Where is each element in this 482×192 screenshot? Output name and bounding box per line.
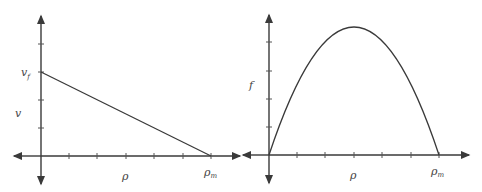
velocity-density-plot: vf v ρ ρm: [14, 16, 240, 184]
rho-m-label: ρm: [430, 165, 444, 179]
x-axis-label: ρ: [349, 169, 357, 182]
velocity-line: [41, 72, 211, 156]
flux-density-plot: f ρ ρm: [243, 15, 469, 183]
x-axis-label: ρ: [121, 170, 129, 183]
flux-parabola: [269, 27, 439, 155]
rho-m-label: ρm: [203, 166, 217, 180]
diagram-canvas: vf v ρ ρm f ρ ρm: [0, 0, 482, 192]
y-axis-label: v: [15, 107, 22, 120]
vf-label: vf: [21, 66, 31, 81]
y-axis-label: f: [248, 79, 255, 92]
